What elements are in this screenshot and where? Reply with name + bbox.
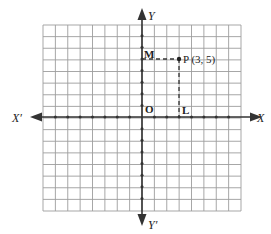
x-negative-axis-label: X′ — [11, 111, 22, 125]
y-axis-tick — [141, 185, 144, 188]
point-m-label: M — [144, 48, 155, 60]
x-axis-tick — [165, 116, 168, 119]
point-l-label: L — [182, 104, 189, 116]
y-axis-tick — [141, 69, 144, 72]
x-axis-tick — [116, 116, 119, 119]
y-axis-tick — [141, 139, 144, 142]
x-axis-arrow-left — [30, 113, 42, 122]
x-axis-tick — [227, 116, 230, 119]
x-axis-tick — [128, 116, 131, 119]
y-axis-tick — [141, 104, 144, 107]
y-axis-tick — [141, 92, 144, 95]
x-axis-tick — [54, 116, 57, 119]
y-axis-tick — [141, 34, 144, 37]
x-axis-tick — [103, 116, 106, 119]
point-p — [177, 57, 181, 61]
y-axis-tick — [141, 127, 144, 130]
x-axis-tick — [91, 116, 94, 119]
y-axis-tick — [141, 81, 144, 84]
x-axis-tick — [190, 116, 193, 119]
x-axis-label: X — [256, 111, 265, 125]
y-axis-tick — [141, 150, 144, 153]
origin-label: O — [145, 103, 154, 115]
x-axis-tick — [66, 116, 69, 119]
y-axis-tick — [141, 197, 144, 200]
coordinate-plane: Y Y′ X X′ O M L P (3, 5) — [0, 0, 271, 234]
y-axis-tick — [141, 174, 144, 177]
y-axis-arrow-up — [138, 8, 147, 20]
x-axis-tick — [215, 116, 218, 119]
x-axis-tick — [79, 116, 82, 119]
point-p-label: P (3, 5) — [183, 53, 216, 66]
y-negative-axis-label: Y′ — [148, 218, 158, 232]
y-axis-tick — [141, 162, 144, 165]
y-axis-label: Y — [148, 9, 156, 23]
y-axis-arrow-down — [138, 214, 147, 226]
x-axis-tick — [153, 116, 156, 119]
x-axis-tick — [202, 116, 205, 119]
